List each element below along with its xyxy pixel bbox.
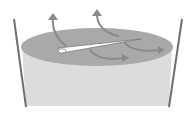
arrowhead-icon <box>92 9 102 16</box>
arrowhead-icon <box>48 13 58 20</box>
diagram <box>0 0 192 116</box>
needle-eye-icon <box>58 49 66 53</box>
